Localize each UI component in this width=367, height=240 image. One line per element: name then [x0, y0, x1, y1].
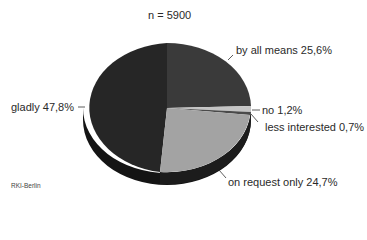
pie-slices — [89, 43, 251, 172]
label-by-all-means: by all means 25,6% — [236, 44, 332, 56]
label-gladly: gladly 47,8% — [11, 101, 74, 113]
label-less-interested: less interested 0,7% — [265, 121, 364, 133]
label-on-request-only: on request only 24,7% — [228, 176, 337, 188]
slice-on-request-only — [160, 108, 250, 172]
source-credit: RKI-Berlin — [11, 182, 41, 189]
label-no: no 1,2% — [262, 104, 302, 116]
